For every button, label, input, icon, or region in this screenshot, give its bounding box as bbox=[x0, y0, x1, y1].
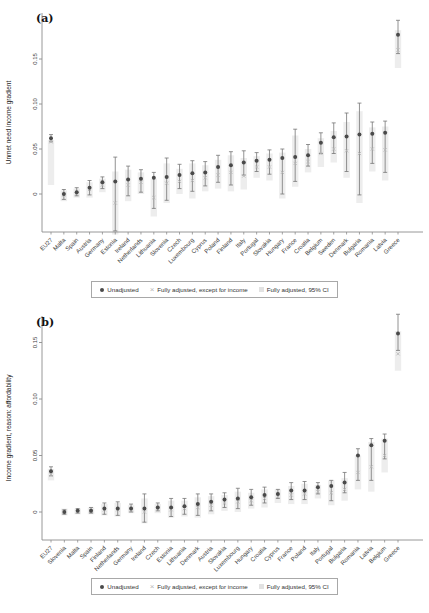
legend-item-unadjusted: Unadjusted bbox=[100, 583, 138, 590]
unadjusted-dot bbox=[75, 190, 79, 194]
unadjusted-dot bbox=[169, 505, 173, 509]
unadjusted-dot bbox=[280, 156, 284, 160]
unadjusted-dot bbox=[369, 443, 373, 447]
ci-band-icon bbox=[259, 287, 264, 292]
unadjusted-dot bbox=[276, 492, 280, 496]
country-point-Slovenia bbox=[62, 510, 66, 515]
country-point-Belgium bbox=[319, 133, 323, 155]
y-tick-label: 0.10 bbox=[32, 393, 38, 405]
ci-band bbox=[48, 140, 54, 185]
legend-a-box: Unadjusted × Fully adjusted, except for … bbox=[91, 281, 337, 298]
legend-label: Unadjusted bbox=[107, 583, 138, 590]
unadjusted-dot bbox=[216, 165, 220, 169]
legend-a: Unadjusted × Fully adjusted, except for … bbox=[0, 281, 429, 298]
unadjusted-dot bbox=[113, 179, 117, 183]
figure: 00.050.100.15Unmet need income gradient(… bbox=[0, 0, 429, 613]
unadjusted-dot bbox=[49, 469, 53, 473]
unadjusted-dot bbox=[182, 504, 186, 508]
unadjusted-dot bbox=[357, 133, 361, 137]
country-point-EU27 bbox=[49, 135, 53, 144]
legend-b: Unadjusted × Fully adjusted, except for … bbox=[0, 578, 429, 595]
legend-label: Fully adjusted, except for income bbox=[157, 286, 247, 293]
legend-item-adjusted-except-income: × Fully adjusted, except for income bbox=[150, 286, 248, 293]
unadjusted-dot bbox=[289, 489, 293, 493]
unadjusted-dot bbox=[139, 177, 143, 181]
unadjusted-dot bbox=[76, 509, 80, 513]
unadjusted-dot bbox=[242, 161, 246, 165]
y-tick-label: 0 bbox=[32, 510, 38, 514]
legend-label: Fully adjusted, except for income bbox=[157, 583, 247, 590]
legend-item-adjusted-ci: Fully adjusted, 95% CI bbox=[259, 583, 329, 590]
country-point-Croatia bbox=[306, 145, 310, 167]
adjusted-x-icon: × bbox=[150, 288, 155, 292]
unadjusted-dot bbox=[196, 502, 200, 506]
x-category-label: Ireland bbox=[130, 545, 147, 562]
y-tick-label: 0.15 bbox=[32, 336, 38, 348]
unadjusted-dot bbox=[345, 134, 349, 138]
unadjusted-dot bbox=[329, 484, 333, 488]
legend-b-box: Unadjusted × Fully adjusted, except for … bbox=[91, 578, 337, 595]
unadjusted-dot bbox=[396, 331, 400, 335]
unadjusted-dot bbox=[332, 135, 336, 139]
y-tick-label: 0 bbox=[32, 192, 38, 196]
country-point-Portugal bbox=[255, 153, 259, 172]
legend-item-adjusted-except-income: × Fully adjusted, except for income bbox=[150, 583, 248, 590]
adjusted-x-icon: × bbox=[150, 585, 155, 589]
unadjusted-dot bbox=[293, 155, 297, 159]
unadjusted-dot bbox=[203, 170, 207, 174]
unadjusted-dot bbox=[190, 171, 194, 175]
unadjusted-dot bbox=[383, 439, 387, 443]
unadjusted-dot bbox=[306, 153, 310, 157]
unadjusted-dot bbox=[356, 454, 360, 458]
unadjusted-dot bbox=[343, 481, 347, 485]
panel-b-chart: 00.050.100.15Income gradient, reason: af… bbox=[0, 306, 429, 578]
unadjusted-dot bbox=[209, 500, 213, 504]
unadjusted-dot bbox=[62, 192, 66, 196]
unadjusted-dot bbox=[100, 180, 104, 184]
unadjusted-dot bbox=[88, 186, 92, 190]
unadjusted-dot bbox=[319, 141, 323, 145]
unadjusted-dot bbox=[223, 498, 227, 502]
unadjusted-dot bbox=[49, 136, 53, 140]
unadjusted-dot bbox=[129, 507, 133, 511]
unadjusted-dot bbox=[89, 509, 93, 513]
panel-a-chart: 00.050.100.15Unmet need income gradient(… bbox=[0, 0, 429, 278]
unadjusted-dot-icon bbox=[100, 585, 104, 589]
unadjusted-dot bbox=[152, 176, 156, 180]
x-category-label: Malta bbox=[66, 544, 81, 559]
unadjusted-dot bbox=[165, 175, 169, 179]
unadjusted-dot bbox=[126, 178, 130, 182]
legend-label: Unadjusted bbox=[107, 286, 138, 293]
panel-label: (a) bbox=[36, 12, 54, 25]
panel-label: (b) bbox=[36, 316, 54, 329]
unadjusted-dot bbox=[263, 493, 267, 497]
ci-band-icon bbox=[259, 584, 264, 589]
x-category-label: EU27 bbox=[39, 237, 54, 252]
legend-item-adjusted-ci: Fully adjusted, 95% CI bbox=[259, 286, 329, 293]
unadjusted-dot bbox=[102, 507, 106, 511]
unadjusted-dot-icon bbox=[100, 288, 104, 292]
y-axis-label: Unmet need income gradient bbox=[5, 81, 13, 165]
unadjusted-dot bbox=[229, 163, 233, 167]
y-tick-label: 0.15 bbox=[32, 53, 38, 65]
unadjusted-dot bbox=[267, 158, 271, 162]
unadjusted-dot bbox=[178, 173, 182, 177]
legend-label: Fully adjusted, 95% CI bbox=[267, 583, 329, 590]
unadjusted-dot bbox=[156, 505, 160, 509]
unadjusted-dot bbox=[396, 33, 400, 37]
unadjusted-dot bbox=[303, 489, 307, 493]
legend-label: Fully adjusted, 95% CI bbox=[267, 286, 329, 293]
y-tick-label: 0.10 bbox=[32, 98, 38, 110]
y-axis-label: Income gradient, reason: affordability bbox=[5, 374, 13, 482]
unadjusted-dot bbox=[383, 131, 387, 135]
unadjusted-dot bbox=[142, 507, 146, 511]
unadjusted-dot bbox=[116, 507, 120, 511]
unadjusted-dot bbox=[370, 132, 374, 136]
legend-item-unadjusted: Unadjusted bbox=[100, 286, 138, 293]
unadjusted-dot bbox=[62, 510, 66, 514]
y-tick-label: 0.05 bbox=[32, 143, 38, 155]
x-category-label: Poland bbox=[290, 545, 307, 562]
unadjusted-dot bbox=[255, 159, 259, 163]
y-tick-label: 0.05 bbox=[32, 449, 38, 461]
unadjusted-dot bbox=[249, 495, 253, 499]
